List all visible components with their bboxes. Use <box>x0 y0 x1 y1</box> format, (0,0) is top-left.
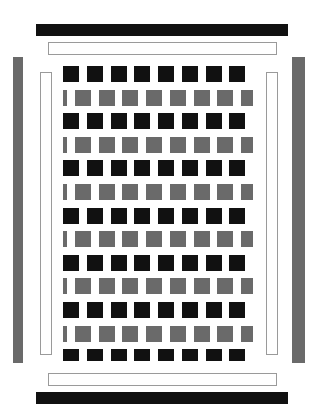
weave-cell-gray <box>146 137 162 153</box>
weave-cell-gray <box>170 137 186 153</box>
weave-cell-dark <box>158 302 174 318</box>
weave-cell-gray <box>75 231 91 247</box>
left-inner-bar <box>40 72 52 355</box>
weave-cell-dark <box>63 349 79 361</box>
weave-cell-gray <box>170 231 186 247</box>
weave-cell-dark <box>182 113 198 129</box>
weave-cell-dark <box>229 208 245 224</box>
weave-cell-gray <box>241 90 253 106</box>
weave-cell-dark <box>206 113 222 129</box>
weave-cell-dark <box>63 302 79 318</box>
weave-cell-gray <box>63 278 67 294</box>
weave-cell-dark <box>111 302 127 318</box>
weave-cell-dark <box>158 113 174 129</box>
weave-cell-gray <box>217 326 233 342</box>
weave-cell-dark <box>111 349 127 361</box>
weave-cell-gray <box>63 184 67 200</box>
weave-cell-gray <box>241 231 253 247</box>
weave-cell-dark <box>134 302 150 318</box>
weave-cell-gray <box>99 90 115 106</box>
weave-row-gray <box>63 90 253 106</box>
weave-cell-dark <box>134 113 150 129</box>
weave-cell-dark <box>229 113 245 129</box>
weave-cell-dark <box>111 255 127 271</box>
weave-cell-dark <box>87 302 103 318</box>
weave-cell-dark <box>158 349 174 361</box>
weave-cell-dark <box>206 66 222 82</box>
weave-row-dark <box>63 113 253 129</box>
weave-cell-gray <box>146 90 162 106</box>
weave-cell-gray <box>194 137 210 153</box>
weave-cell-gray <box>122 90 138 106</box>
weave-cell-dark <box>87 349 103 361</box>
weave-cell-dark <box>206 208 222 224</box>
weave-cell-gray <box>122 278 138 294</box>
weave-cell-dark <box>63 255 79 271</box>
weave-cell-gray <box>194 90 210 106</box>
bottom-outer-bar <box>36 392 288 404</box>
weave-cell-gray <box>194 184 210 200</box>
weave-row-dark <box>63 255 253 271</box>
weave-row-dark <box>63 349 253 361</box>
top-outer-bar <box>36 24 288 36</box>
weave-cell-dark <box>87 113 103 129</box>
right-inner-bar <box>266 72 278 355</box>
weave-cell-dark <box>87 255 103 271</box>
weave-cell-gray <box>146 326 162 342</box>
weave-cell-dark <box>111 160 127 176</box>
weave-cell-dark <box>158 66 174 82</box>
weave-cell-gray <box>194 278 210 294</box>
weave-cell-gray <box>241 326 253 342</box>
weave-cell-dark <box>134 255 150 271</box>
weave-row-gray <box>63 231 253 247</box>
weave-cell-gray <box>75 184 91 200</box>
weave-cell-gray <box>75 278 91 294</box>
weave-cell-dark <box>63 208 79 224</box>
weave-cell-dark <box>182 302 198 318</box>
weave-cell-gray <box>99 326 115 342</box>
weave-cell-gray <box>99 137 115 153</box>
weave-cell-gray <box>122 326 138 342</box>
weave-row-gray <box>63 184 253 200</box>
weave-cell-gray <box>217 231 233 247</box>
weave-cell-gray <box>75 326 91 342</box>
weave-cell-gray <box>146 278 162 294</box>
weave-cell-gray <box>63 90 67 106</box>
weave-cell-dark <box>182 208 198 224</box>
weave-cell-gray <box>170 326 186 342</box>
weave-cell-gray <box>99 231 115 247</box>
weave-cell-gray <box>241 137 253 153</box>
weave-cell-gray <box>122 231 138 247</box>
weave-cell-dark <box>229 66 245 82</box>
weave-cell-dark <box>229 255 245 271</box>
weave-cell-gray <box>194 326 210 342</box>
weave-cell-dark <box>87 208 103 224</box>
weave-row-gray <box>63 326 253 342</box>
top-inner-bar <box>48 42 277 55</box>
weave-cell-gray <box>63 231 67 247</box>
weave-grid <box>63 66 253 361</box>
weave-cell-gray <box>99 278 115 294</box>
weave-cell-gray <box>99 184 115 200</box>
weave-cell-dark <box>111 113 127 129</box>
weave-cell-dark <box>63 113 79 129</box>
weave-cell-dark <box>182 66 198 82</box>
weave-cell-gray <box>122 137 138 153</box>
weave-cell-gray <box>170 90 186 106</box>
weave-cell-dark <box>134 208 150 224</box>
pattern-canvas <box>0 0 325 420</box>
weave-cell-gray <box>75 137 91 153</box>
weave-cell-gray <box>146 231 162 247</box>
weave-cell-dark <box>182 349 198 361</box>
weave-cell-dark <box>158 208 174 224</box>
weave-cell-dark <box>87 160 103 176</box>
weave-cell-dark <box>134 66 150 82</box>
weave-cell-dark <box>182 255 198 271</box>
weave-cell-dark <box>158 255 174 271</box>
left-outer-bar <box>13 57 23 363</box>
weave-cell-gray <box>170 278 186 294</box>
weave-cell-dark <box>134 160 150 176</box>
right-outer-bar <box>292 57 305 363</box>
weave-cell-gray <box>241 184 253 200</box>
weave-cell-dark <box>111 208 127 224</box>
